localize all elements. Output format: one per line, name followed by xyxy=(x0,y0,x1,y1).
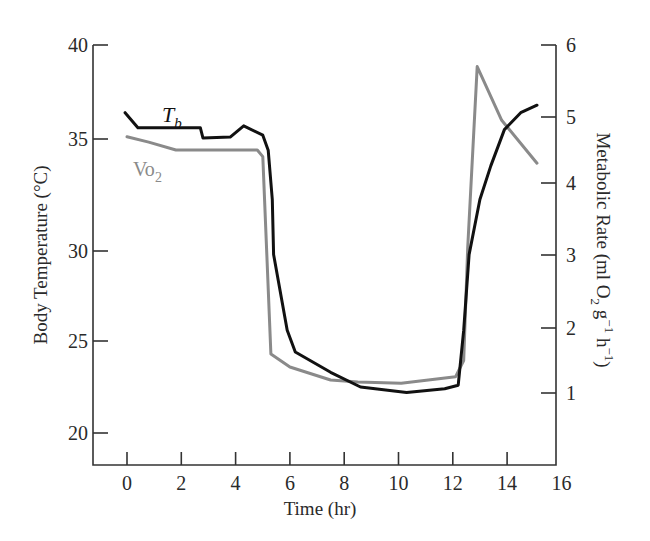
y-tick-label: 40 xyxy=(68,34,88,56)
y-axis-ticks: 2025303540 xyxy=(68,34,108,444)
x-tick-label: 10 xyxy=(389,472,409,494)
y-axis-title: Body Temperature (°C) xyxy=(30,166,52,345)
y2-tick-label: 3 xyxy=(566,244,576,266)
y2-axis-title: Metabolic Rate (ml O2 g−1 h−1) xyxy=(588,132,617,367)
y-tick-label: 20 xyxy=(68,422,88,444)
x-tick-label: 2 xyxy=(176,472,186,494)
y-tick-label: 25 xyxy=(68,330,88,352)
x-tick-label: 8 xyxy=(339,472,349,494)
y-tick-label: 35 xyxy=(68,128,88,150)
x-axis-ticks: 0246810121416 xyxy=(122,452,571,494)
y2-tick-label: 4 xyxy=(566,172,576,194)
x-tick-label: 16 xyxy=(551,472,571,494)
chart-canvas: 0246810121416 2025303540 123456 Tb Vo2 T… xyxy=(0,0,650,541)
x-axis-title: Time (hr) xyxy=(284,498,357,520)
y2-tick-label: 1 xyxy=(566,382,576,404)
x-tick-label: 0 xyxy=(122,472,132,494)
x-tick-label: 12 xyxy=(443,472,463,494)
y2-axis-ticks: 123456 xyxy=(541,34,576,404)
tb-series-label: Tb xyxy=(162,102,182,131)
y2-tick-label: 5 xyxy=(566,106,576,128)
y2-tick-label: 2 xyxy=(566,317,576,339)
y-tick-label: 30 xyxy=(68,240,88,262)
y2-tick-label: 6 xyxy=(566,34,576,56)
x-tick-label: 14 xyxy=(497,472,517,494)
vo2-series-label: Vo2 xyxy=(133,158,162,185)
tb-series-line xyxy=(125,105,537,392)
x-tick-label: 6 xyxy=(285,472,295,494)
x-tick-label: 4 xyxy=(231,472,241,494)
